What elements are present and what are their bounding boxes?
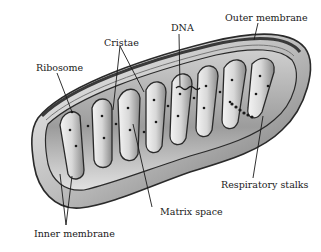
label-cristae: Cristae (104, 38, 139, 48)
label-ribosome: Ribosome (36, 63, 83, 73)
label-inner-membrane: Inner membrane (34, 229, 115, 239)
label-matrix-space: Matrix space (160, 207, 223, 217)
label-respiratory-stalks: Respiratory stalks (221, 180, 308, 190)
mitochondrion-diagram: Cristae DNA Outer membrane Ribosome Resp… (0, 0, 321, 252)
label-outer-membrane: Outer membrane (225, 13, 308, 23)
label-dna: DNA (171, 23, 194, 33)
